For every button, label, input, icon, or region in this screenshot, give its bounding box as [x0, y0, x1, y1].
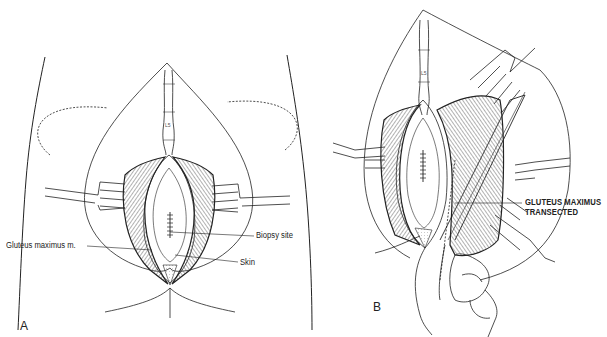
label-skin: Skin: [240, 257, 255, 267]
label-gluteus-transected: GLUTEUS MAXIMUS TRANSECTED: [525, 197, 601, 217]
label-transected-line2: TRANSECTED: [525, 207, 601, 217]
panel-letter-b: B: [373, 300, 381, 314]
label-gluteus-maximus: Gluteus maximus m.: [6, 240, 76, 250]
panel-a-drawing: [18, 55, 312, 330]
vertebra-label-b: L5: [421, 70, 427, 76]
label-transected-line1: GLUTEUS MAXIMUS: [525, 197, 601, 207]
surgical-illustration: [0, 0, 607, 337]
vertebra-label-a: L5: [165, 122, 171, 128]
label-biopsy-site: Biopsy site: [256, 230, 293, 240]
panel-letter-a: A: [20, 319, 28, 333]
